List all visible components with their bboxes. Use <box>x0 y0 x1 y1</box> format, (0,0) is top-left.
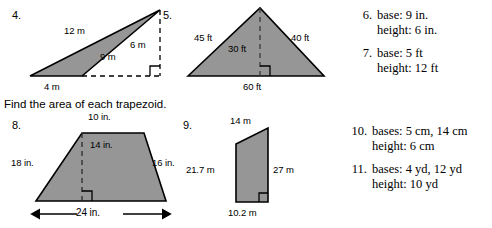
problem-11-text: 11.bases: 4 yd, 12 yd height: 10 yd <box>347 162 462 192</box>
problem-number-5: 5. <box>163 10 172 21</box>
problem-10-line1: bases: 5 cm, 14 cm <box>372 124 467 138</box>
figure-problem-5 <box>182 4 332 82</box>
problem-10-line2: height: 6 cm <box>372 139 467 154</box>
label-p4-side-lower: 9 m <box>100 52 116 62</box>
label-p4-side-upper: 12 m <box>64 26 85 36</box>
label-p5-height: 30 ft <box>228 44 246 54</box>
dimension-arrow-p8 <box>30 207 172 221</box>
problem-11-line2: height: 10 yd <box>372 177 462 192</box>
label-p5-right-side: 40 ft <box>291 33 309 43</box>
label-p5-base: 60 ft <box>243 82 261 92</box>
problem-6-line2: height: 6 in. <box>377 23 437 38</box>
problem-7-line2: height: 12 ft <box>377 61 438 76</box>
label-p9-bottom-base: 10.2 m <box>228 208 256 218</box>
worksheet-page: 4. 12 m 6 m 9 m 4 m 5. 45 ft 40 ft <box>0 0 492 228</box>
double-arrow-svg <box>30 207 172 221</box>
figure-problem-4 <box>24 4 170 82</box>
problem-6-text: 6.base: 9 in. height: 6 in. <box>352 8 437 38</box>
instruction-text: Find the area of each trapezoid. <box>4 99 166 111</box>
problem-6-line1: base: 9 in. <box>377 8 428 22</box>
problem-10-text: 10.bases: 5 cm, 14 cm height: 6 cm <box>347 124 467 154</box>
label-p5-left-side: 45 ft <box>194 33 212 43</box>
problem-number-9: 9. <box>183 120 192 131</box>
problem-number-11: 11. <box>347 162 367 177</box>
label-p9-left-side: 21.7 m <box>186 165 214 175</box>
right-trapezoid-shape <box>236 128 268 202</box>
label-p8-bottom-base: 24 in. <box>76 208 100 218</box>
label-p8-left-side: 18 in. <box>11 158 34 168</box>
label-p8-height: 14 in. <box>90 140 113 150</box>
problem-number-8: 8. <box>12 120 21 131</box>
problem-7-text: 7.base: 5 ft height: 12 ft <box>352 46 438 76</box>
problem-number-7: 7. <box>352 46 372 61</box>
problem-11-line1: bases: 4 yd, 12 yd <box>372 162 462 176</box>
label-p4-base: 4 m <box>44 82 60 92</box>
problem-number-10: 10. <box>347 124 367 139</box>
obtuse-triangle-svg <box>24 4 170 82</box>
label-p8-top-base: 10 in. <box>88 112 111 122</box>
right-angle-marker <box>150 66 160 76</box>
triangle-svg <box>182 4 332 82</box>
problem-number-4: 4. <box>12 10 21 21</box>
label-p9-right-side: 27 m <box>273 165 294 175</box>
problem-7-line1: base: 5 ft <box>377 46 423 60</box>
label-p4-height: 6 m <box>130 40 146 50</box>
label-p9-top-base: 14 m <box>230 116 251 126</box>
label-p8-right-side: 16 in. <box>152 158 175 168</box>
problem-number-6: 6. <box>352 8 372 23</box>
